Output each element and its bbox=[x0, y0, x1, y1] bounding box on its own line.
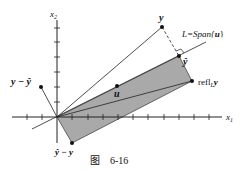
label-y: y bbox=[158, 12, 164, 23]
label-yhat: ŷ bbox=[182, 56, 188, 67]
figure-caption: 图6-16 bbox=[90, 155, 128, 166]
label-yhat-minus-y: ŷ − y bbox=[54, 147, 74, 157]
label-line-L: L=Span{u} bbox=[181, 29, 224, 39]
y-axis-label: x2 bbox=[49, 9, 57, 20]
right-angle-marker bbox=[176, 49, 184, 53]
point-yhat bbox=[177, 54, 181, 58]
point-y-minus-yhat bbox=[39, 85, 43, 89]
point-yhat-minus-y bbox=[70, 141, 74, 145]
label-y-minus-yhat: y − ŷ bbox=[10, 76, 31, 87]
point-refl bbox=[190, 79, 194, 83]
x-axis-label: x1 bbox=[225, 112, 233, 123]
label-refl: reflLy bbox=[198, 77, 219, 88]
reflection-diagram: x2 x1 y ŷ L=Span{u} reflLy u y − ŷ ŷ − y… bbox=[0, 0, 246, 172]
projection-dashed bbox=[162, 27, 179, 56]
label-u: u bbox=[114, 88, 120, 99]
point-y bbox=[160, 25, 164, 29]
